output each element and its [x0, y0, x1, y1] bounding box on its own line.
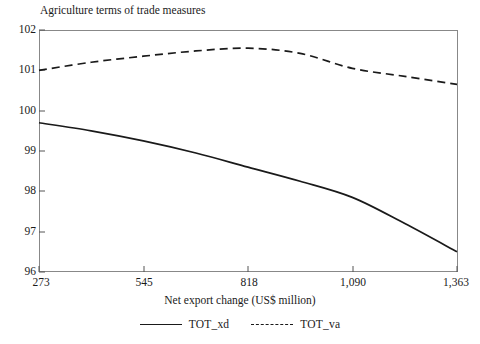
- legend-label: TOT_xd: [189, 318, 230, 330]
- y-tick-label: 98: [6, 185, 36, 197]
- x-axis-label: Net export change (US$ million): [0, 294, 480, 306]
- y-tick-label: 97: [6, 226, 36, 238]
- legend-item-tot-va: TOT_va: [251, 318, 340, 330]
- x-tick-label: 818: [240, 276, 257, 288]
- legend-label: TOT_va: [300, 318, 340, 330]
- y-tick-label: 101: [6, 64, 36, 76]
- plot-area: [39, 30, 458, 272]
- legend-line-dashed-icon: [251, 324, 293, 325]
- y-axis-tick-labels: 102 101 100 99 98 97 96: [0, 0, 36, 344]
- x-tick-label: 1,363: [443, 276, 469, 288]
- legend-item-tot-xd: TOT_xd: [140, 318, 230, 330]
- x-tick-label: 545: [135, 276, 152, 288]
- y-tick-label: 100: [6, 105, 36, 117]
- chart-legend: TOT_xd TOT_va: [0, 318, 480, 330]
- y-tick-label: 99: [6, 145, 36, 157]
- y-tick-label: 102: [6, 24, 36, 36]
- x-tick-label: 273: [32, 276, 49, 288]
- chart-figure: Agriculture terms of trade measures 102 …: [0, 0, 480, 344]
- chart-title: Agriculture terms of trade measures: [40, 3, 205, 17]
- x-tick-label: 1,090: [340, 276, 366, 288]
- legend-line-solid-icon: [140, 324, 182, 325]
